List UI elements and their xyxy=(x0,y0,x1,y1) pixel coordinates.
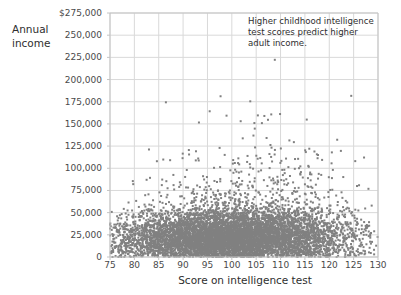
data-point xyxy=(274,149,276,151)
data-point xyxy=(276,183,278,185)
data-point xyxy=(220,225,222,227)
data-point xyxy=(239,233,241,235)
data-point xyxy=(316,233,318,235)
data-point xyxy=(272,188,274,190)
data-point xyxy=(151,237,153,239)
data-point xyxy=(259,240,261,242)
data-point xyxy=(212,242,214,244)
data-point xyxy=(205,186,207,188)
data-point xyxy=(235,171,237,173)
data-point xyxy=(122,234,124,236)
x-tick-label: 110 xyxy=(272,260,289,270)
data-point xyxy=(139,232,141,234)
data-point xyxy=(143,217,145,219)
data-point xyxy=(301,232,303,234)
data-point xyxy=(294,187,296,189)
data-point xyxy=(260,223,262,225)
data-point xyxy=(288,200,290,202)
data-point xyxy=(156,254,158,256)
data-point xyxy=(277,251,279,253)
data-point xyxy=(360,232,362,234)
data-point xyxy=(293,244,295,246)
data-point xyxy=(118,232,120,234)
data-point xyxy=(183,197,185,199)
data-point xyxy=(116,215,118,217)
data-point xyxy=(303,248,305,250)
data-point xyxy=(210,196,212,198)
data-point xyxy=(159,215,161,217)
data-point xyxy=(204,202,206,204)
data-point xyxy=(141,226,143,228)
data-point xyxy=(176,209,178,211)
data-point xyxy=(240,212,242,214)
data-point xyxy=(201,198,203,200)
data-point xyxy=(160,241,162,243)
data-point xyxy=(167,234,169,236)
data-point xyxy=(330,241,332,243)
data-point xyxy=(229,169,231,171)
data-point xyxy=(342,244,344,246)
data-point xyxy=(220,249,222,251)
data-point xyxy=(197,247,199,249)
data-point xyxy=(259,227,261,229)
data-point xyxy=(246,236,248,238)
data-point xyxy=(309,172,311,174)
data-point xyxy=(132,180,134,182)
data-point xyxy=(297,202,299,204)
data-point xyxy=(235,185,237,187)
data-point xyxy=(193,235,195,237)
data-point xyxy=(348,207,350,209)
data-point xyxy=(255,223,257,225)
data-point xyxy=(347,254,349,256)
data-point xyxy=(213,198,215,200)
data-point xyxy=(274,246,276,248)
data-point xyxy=(253,215,255,217)
data-point xyxy=(165,210,167,212)
data-point xyxy=(304,251,306,253)
data-point xyxy=(181,231,183,233)
x-tick-label: 130 xyxy=(369,260,386,270)
data-point xyxy=(132,215,134,217)
data-point xyxy=(363,246,365,248)
data-point xyxy=(197,158,199,160)
data-point xyxy=(131,239,133,241)
data-point xyxy=(272,200,274,202)
data-point xyxy=(276,235,278,237)
data-point xyxy=(312,202,314,204)
data-point xyxy=(162,254,164,256)
data-point xyxy=(136,240,138,242)
data-point xyxy=(118,225,120,227)
data-point xyxy=(244,205,246,207)
data-point xyxy=(340,232,342,234)
data-point xyxy=(272,194,274,196)
data-point xyxy=(235,250,237,252)
data-point xyxy=(187,241,189,243)
data-point xyxy=(183,220,185,222)
data-point xyxy=(368,225,370,227)
data-point xyxy=(283,238,285,240)
data-point xyxy=(112,227,114,229)
data-point xyxy=(305,214,307,216)
data-point xyxy=(298,231,300,233)
data-point xyxy=(266,231,268,233)
data-point xyxy=(110,245,112,247)
data-point xyxy=(304,223,306,225)
data-point xyxy=(219,178,221,180)
data-point xyxy=(291,217,293,219)
data-point xyxy=(219,231,221,233)
data-point xyxy=(349,227,351,229)
data-point xyxy=(113,234,115,236)
data-point xyxy=(128,245,130,247)
data-point xyxy=(173,184,175,186)
data-point xyxy=(313,151,315,153)
data-point xyxy=(172,248,174,250)
data-point xyxy=(198,122,200,124)
data-point xyxy=(190,209,192,211)
data-point xyxy=(299,235,301,237)
data-point xyxy=(130,244,132,246)
data-point xyxy=(134,223,136,225)
data-point xyxy=(336,237,338,239)
data-point xyxy=(311,210,313,212)
data-point xyxy=(132,231,134,233)
data-point xyxy=(226,115,228,117)
